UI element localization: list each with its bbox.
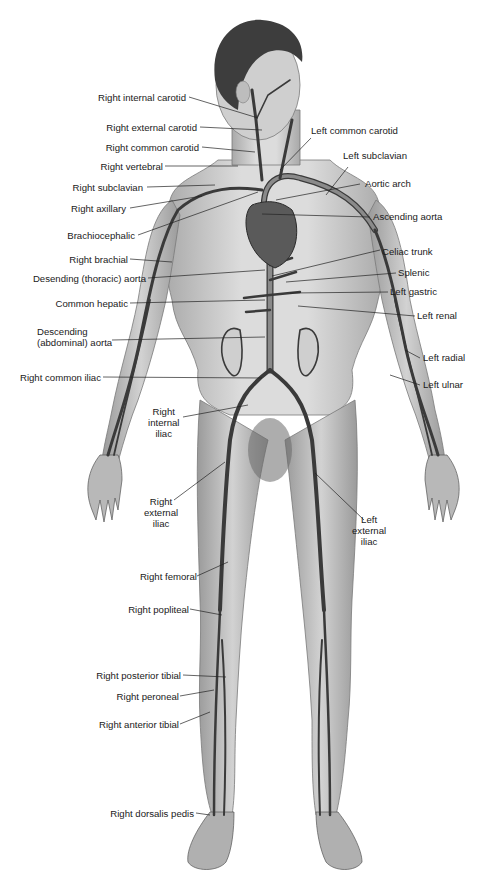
label-right-internal-iliac: Right internal iliac (148, 406, 179, 439)
label-aortic-arch: Aortic arch (365, 178, 411, 189)
feet (188, 812, 362, 870)
label-celiac-trunk: Celiac trunk (382, 246, 433, 257)
label-right-common-carotid: Right common carotid (106, 142, 199, 153)
label-left-gastric: Left gastric (390, 286, 437, 297)
label-right-external-iliac: Right external iliac (144, 496, 178, 529)
label-right-vertebral: Right vertebral (101, 161, 163, 172)
label-left-external-iliac: Left external iliac (352, 514, 386, 547)
label-right-peroneal: Right peroneal (117, 691, 179, 702)
label-left-radial: Left radial (423, 352, 465, 363)
label-right-brachial: Right brachial (69, 254, 128, 265)
label-right-external-carotid: Right external carotid (106, 122, 197, 133)
label-descending-thoracic-aorta: Desending (thoracic) aorta (33, 273, 146, 284)
label-ascending-aorta: Ascending aorta (373, 211, 442, 222)
label-splenic: Splenic (398, 267, 429, 278)
label-descending-abdominal-aorta: Descending (abdominal) aorta (37, 326, 112, 348)
pelvis-shading (248, 418, 292, 482)
label-right-dorsalis-pedis: Right dorsalis pedis (110, 808, 194, 819)
label-left-ulnar: Left ulnar (423, 379, 463, 390)
label-left-renal: Left renal (417, 310, 457, 321)
arterial-system-figure (0, 0, 485, 889)
label-right-internal-carotid: Right internal carotid (98, 92, 186, 103)
label-right-anterior-tibial: Right anterior tibial (99, 719, 179, 730)
label-brachiocephalic: Brachiocephalic (67, 230, 135, 241)
label-right-common-iliac: Right common iliac (20, 372, 101, 383)
label-left-subclavian: Left subclavian (343, 150, 407, 161)
label-right-posterior-tibial: Right posterior tibial (96, 670, 181, 681)
label-right-femoral: Right femoral (140, 571, 197, 582)
label-right-axillary: Right axillary (71, 203, 126, 214)
label-right-subclavian: Right subclavian (73, 182, 143, 193)
label-left-common-carotid: Left common carotid (311, 125, 398, 136)
label-common-hepatic: Common hepatic (55, 298, 128, 309)
label-right-popliteal: Right popliteal (128, 604, 189, 615)
